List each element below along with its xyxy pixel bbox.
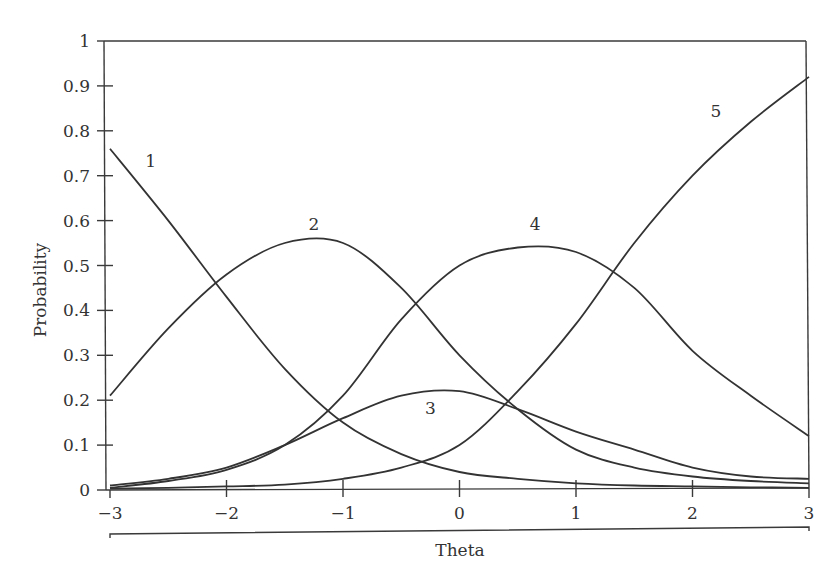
curve-label-4: 4: [530, 214, 541, 234]
y-tick-label: 0.4: [63, 300, 90, 320]
curve-label-1: 1: [145, 151, 156, 171]
x-tick-label: 1: [571, 503, 582, 523]
y-axis-title: Probability: [30, 242, 50, 337]
right-border: [806, 41, 809, 490]
x-axis-title: Theta: [435, 540, 484, 560]
y-tick-label: 0: [79, 480, 90, 500]
probability-chart: 00.10.20.30.40.50.60.70.80.91 −3−2−10123…: [0, 0, 835, 583]
y-tick-label: 0.7: [63, 166, 90, 186]
x-axis: [106, 488, 809, 490]
curve-label-2: 2: [308, 214, 319, 234]
curve-labels: 12345: [145, 101, 721, 417]
x-tick-label: −2: [214, 503, 239, 523]
curve-label-3: 3: [425, 398, 436, 418]
curve-1: [110, 149, 809, 488]
curves: [110, 77, 809, 489]
x-tick-label: 3: [804, 503, 815, 523]
curve-label-5: 5: [710, 101, 721, 121]
x-tick-label: −1: [330, 503, 355, 523]
y-tick-label: 0.1: [63, 435, 90, 455]
y-tick-label: 0.2: [63, 390, 90, 410]
y-tick-label: 1: [79, 31, 90, 51]
x-axis-bracket: [110, 527, 809, 538]
y-tick-label: 0.8: [63, 121, 90, 141]
plot-frame: [104, 41, 809, 538]
y-tick-label: 0.3: [63, 345, 90, 365]
x-tick-label: −3: [97, 503, 122, 523]
x-tick-label: 0: [454, 503, 465, 523]
y-tick-label: 0.9: [63, 76, 90, 96]
y-tick-label: 0.5: [63, 256, 90, 276]
y-tick-label: 0.6: [63, 211, 90, 231]
x-tick-label: 2: [687, 503, 698, 523]
